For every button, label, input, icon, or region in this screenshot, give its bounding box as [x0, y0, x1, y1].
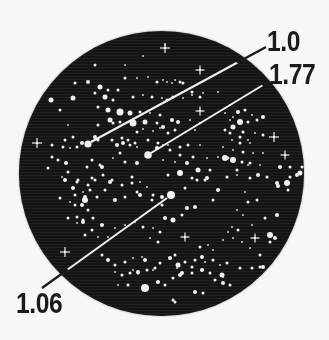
star — [131, 182, 134, 185]
star — [71, 186, 75, 190]
star — [196, 168, 201, 173]
star — [216, 188, 220, 192]
star — [191, 91, 194, 94]
star — [179, 154, 182, 157]
star — [200, 268, 204, 272]
star — [111, 179, 114, 182]
star — [157, 142, 160, 145]
star — [97, 106, 100, 109]
star — [136, 191, 139, 194]
star — [249, 247, 251, 249]
star — [132, 257, 134, 259]
star — [209, 169, 212, 172]
star — [57, 159, 60, 162]
star — [256, 173, 260, 177]
star — [121, 137, 124, 140]
star — [112, 99, 115, 102]
star — [251, 224, 253, 226]
star — [129, 272, 132, 275]
star — [278, 165, 282, 169]
star — [159, 231, 162, 234]
star — [81, 220, 85, 224]
star — [82, 191, 84, 193]
star — [114, 227, 116, 229]
star — [239, 142, 242, 145]
star — [256, 119, 259, 122]
star — [191, 94, 193, 96]
annotation-label-middle: 1.77 — [269, 60, 315, 89]
star — [187, 144, 190, 147]
star — [191, 272, 194, 275]
star — [64, 139, 67, 142]
star — [86, 166, 89, 169]
star — [94, 92, 97, 95]
star — [170, 118, 174, 122]
star — [289, 166, 292, 169]
star — [262, 134, 265, 137]
star — [161, 97, 163, 99]
star — [161, 125, 165, 129]
star — [159, 127, 161, 129]
star — [136, 146, 138, 148]
star — [151, 96, 154, 99]
star — [232, 149, 234, 151]
star — [129, 144, 132, 147]
star — [166, 81, 168, 83]
star — [185, 161, 189, 165]
star — [92, 217, 95, 220]
star — [200, 255, 204, 259]
star — [114, 271, 116, 273]
star — [114, 264, 117, 267]
star — [276, 184, 280, 188]
star — [267, 232, 273, 238]
star — [167, 174, 170, 177]
star — [231, 125, 236, 130]
star — [103, 95, 108, 100]
star — [249, 142, 251, 144]
star — [74, 194, 77, 197]
star — [207, 244, 209, 246]
star — [67, 171, 70, 174]
star — [214, 279, 217, 282]
star — [242, 214, 244, 216]
star — [242, 131, 245, 134]
star — [107, 236, 109, 238]
star — [191, 266, 194, 269]
star — [59, 109, 62, 112]
star — [167, 132, 170, 135]
star — [47, 167, 50, 170]
star — [182, 97, 184, 99]
star — [127, 139, 130, 142]
star — [232, 116, 234, 118]
star — [97, 236, 99, 238]
star — [152, 130, 154, 132]
star — [269, 241, 272, 244]
star — [221, 281, 225, 285]
star — [157, 241, 160, 244]
star — [212, 199, 215, 202]
star — [112, 122, 115, 125]
star — [199, 144, 201, 146]
star — [111, 139, 114, 142]
star — [244, 191, 246, 193]
star — [174, 79, 176, 81]
star — [220, 273, 225, 278]
star — [138, 193, 142, 197]
star — [177, 170, 183, 176]
star — [87, 209, 90, 212]
star — [159, 114, 162, 117]
star — [168, 256, 172, 260]
star — [146, 186, 148, 188]
star — [124, 196, 127, 199]
star — [117, 89, 120, 92]
star — [101, 254, 104, 257]
star — [89, 189, 92, 192]
star — [91, 177, 94, 180]
star — [80, 203, 84, 207]
star — [112, 157, 114, 159]
spike-star-icon — [160, 43, 170, 53]
star — [106, 108, 111, 113]
star — [137, 272, 140, 275]
star — [259, 254, 262, 257]
star — [80, 141, 84, 145]
